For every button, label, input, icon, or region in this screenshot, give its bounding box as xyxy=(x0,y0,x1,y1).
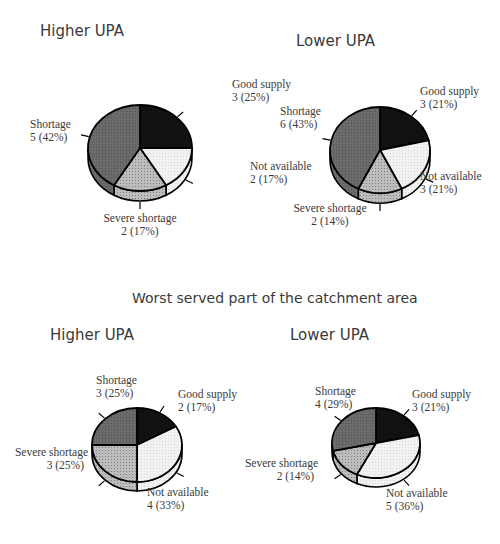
leader-line-icon xyxy=(335,416,341,420)
leader-line-icon xyxy=(99,413,105,418)
slice-label-severe-shortage: Severe shortage3 (25%) xyxy=(15,446,88,472)
slice-label-not-available: Not available3 (21%) xyxy=(420,170,482,196)
slice-label-severe-shortage: Severe shortage2 (14%) xyxy=(245,457,318,483)
pie-slice-shortage xyxy=(332,408,376,451)
leader-line-icon xyxy=(186,180,193,184)
leader-line-icon xyxy=(404,480,409,485)
pie-chart-1: Good supply3 (25%)Not available2 (17%)Se… xyxy=(30,78,312,238)
slice-label-not-available: Not available2 (17%) xyxy=(250,160,312,186)
pie-charts-svg: Good supply3 (25%)Not available2 (17%)Se… xyxy=(0,0,500,544)
slice-label-not-available: Not available4 (33%) xyxy=(147,486,209,512)
leader-line-icon xyxy=(335,474,341,478)
pie-chart-3: Good supply2 (17%)Not available4 (33%)Se… xyxy=(15,374,237,512)
pie-slice-severe-shortage xyxy=(92,445,137,482)
slice-label-shortage: Shortage5 (42%) xyxy=(30,118,71,144)
section-title: Worst served part of the catchment area xyxy=(132,290,418,306)
pie-chart-2: Good supply3 (21%)Not available3 (21%)Se… xyxy=(280,85,482,228)
pie-chart-4: Good supply3 (21%)Not available5 (36%)Se… xyxy=(245,385,471,513)
leader-line-icon xyxy=(81,135,89,137)
slice-label-good-supply: Good supply3 (21%) xyxy=(420,85,479,111)
leader-line-icon xyxy=(99,481,105,486)
leader-line-icon xyxy=(160,406,164,412)
leader-line-icon xyxy=(322,139,330,141)
leader-line-icon xyxy=(177,473,184,477)
leader-line-icon xyxy=(177,112,183,117)
slice-label-not-available: Not available5 (36%) xyxy=(386,487,448,513)
slice-label-severe-shortage: Severe shortage2 (17%) xyxy=(103,212,176,238)
leader-line-icon xyxy=(404,409,409,414)
slice-label-good-supply: Good supply3 (25%) xyxy=(232,78,291,104)
slice-label-good-supply: Good supply2 (17%) xyxy=(178,388,237,414)
slice-label-good-supply: Good supply3 (21%) xyxy=(412,388,471,414)
slice-label-shortage: Shortage3 (25%) xyxy=(96,374,137,400)
slice-label-severe-shortage: Severe shortage2 (14%) xyxy=(293,202,366,228)
slice-label-shortage: Shortage4 (29%) xyxy=(315,385,356,411)
pie-slice-good-supply xyxy=(140,105,192,148)
leader-line-icon xyxy=(412,110,417,115)
slice-label-shortage: Shortage6 (43%) xyxy=(280,105,321,131)
